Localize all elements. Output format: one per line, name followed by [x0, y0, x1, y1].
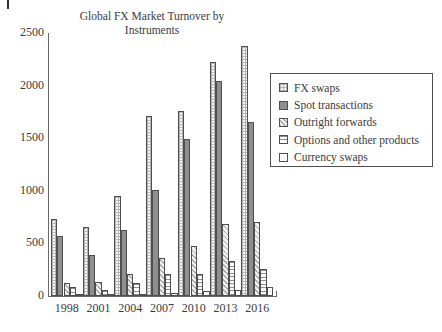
y-tick-label-500: 500	[0, 235, 44, 250]
x-tick-label-2010: 2010	[177, 301, 211, 316]
legend-swatch-outright-forwards-icon	[279, 118, 288, 127]
legend: FX swapsSpot transactionsOutright forwar…	[270, 73, 433, 167]
legend-swatch-fx-swaps-icon	[279, 83, 288, 92]
legend-label-spot-transactions: Spot transactions	[294, 99, 373, 111]
x-tick-label-2001: 2001	[81, 301, 115, 316]
legend-label-outright-forwards: Outright forwards	[294, 116, 377, 128]
legend-swatch-spot-transactions-icon	[279, 101, 288, 110]
y-tick-label-1000: 1000	[0, 183, 44, 198]
chart-title: Global FX Market Turnover by Instruments	[63, 10, 241, 38]
x-tick-label-1998: 1998	[50, 301, 84, 316]
x-axis-end-tick	[276, 291, 277, 297]
x-tick-label-2013: 2013	[208, 301, 242, 316]
x-axis-line	[48, 296, 277, 297]
chart-figure: Global FX Market Turnover by Instruments…	[0, 0, 442, 332]
page-edge-mark	[7, 0, 9, 9]
legend-item-fx-swaps: FX swaps	[279, 79, 432, 96]
x-tick-label-2016: 2016	[240, 301, 274, 316]
legend-item-outright-forwards: Outright forwards	[279, 114, 432, 131]
legend-swatch-options-and-other-products-icon	[279, 135, 288, 144]
y-axis-line	[48, 33, 49, 297]
legend-item-currency-swaps: Currency swaps	[279, 149, 432, 166]
bar-2016-currency-swaps	[267, 287, 273, 296]
legend-label-currency-swaps: Currency swaps	[294, 151, 368, 163]
legend-item-options-and-other-products: Options and other products	[279, 131, 432, 148]
y-tick-label-2500: 2500	[0, 25, 44, 40]
y-tick-label-0: 0	[0, 288, 44, 303]
legend-swatch-currency-swaps-icon	[279, 153, 288, 162]
legend-label-fx-swaps: FX swaps	[294, 82, 340, 94]
y-tick-label-1500: 1500	[0, 130, 44, 145]
x-tick-label-2007: 2007	[145, 301, 179, 316]
y-tick-label-2000: 2000	[0, 78, 44, 93]
x-tick-label-2004: 2004	[113, 301, 147, 316]
legend-label-options-and-other-products: Options and other products	[294, 134, 419, 146]
legend-item-spot-transactions: Spot transactions	[279, 96, 432, 113]
